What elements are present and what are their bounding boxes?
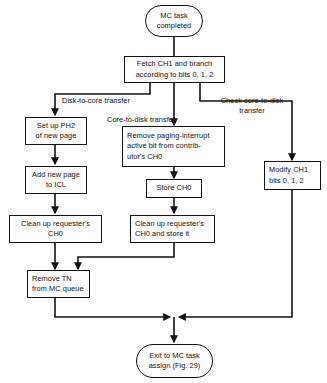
node-set-up-ph2-label: Set up PH2 of new page: [36, 121, 77, 141]
node-clean-up-requesters-ch0-label: Clean up requester's CH0: [21, 219, 90, 239]
node-clean-up-and-store-label: Clean up requester's CH0 and store it: [135, 219, 204, 239]
node-fetch-ch1: Fetch CH1 and branch according to bits 0…: [124, 56, 225, 83]
edge-label-disk-to-core: Disk-to-core transfer: [62, 86, 130, 106]
edge-label-core-to-disk: Core-to-disk transfer: [107, 105, 175, 125]
node-modify-ch1-label: Modify CH1 bits 0, 1, 2: [269, 165, 308, 185]
node-clean-up-and-store: Clean up requester's CH0 and store it: [130, 215, 215, 243]
node-remove-tn-label: Remove TN from MC queue: [32, 274, 84, 294]
node-remove-paging-interrupt-label: Remove paging-interrupt active bit from …: [127, 131, 210, 162]
node-start-label: MC task completed: [157, 11, 192, 31]
node-fetch-ch1-label: Fetch CH1 and branch according to bits 0…: [136, 59, 214, 79]
connector-modify-ch1-to-merge: [179, 190, 292, 317]
connector-clean-up-middle-to-remove-tn: [78, 243, 174, 269]
node-exit-label: Exit to MC task assign (Fig. 29): [149, 351, 201, 371]
node-remove-paging-interrupt: Remove paging-interrupt active bit from …: [122, 126, 225, 167]
node-modify-ch1: Modify CH1 bits 0, 1, 2: [264, 161, 321, 190]
node-store-ch0: Store CH0: [146, 179, 202, 198]
node-add-new-page-label: Add new page to ICL: [32, 170, 80, 190]
node-start: MC task completed: [145, 5, 203, 37]
node-clean-up-requesters-ch0: Clean up requester's CH0: [9, 215, 102, 243]
flowchart-figure: MC task completed Fetch CH1 and branch a…: [0, 0, 327, 383]
node-exit: Exit to MC task assign (Fig. 29): [136, 344, 213, 378]
edge-label-check-core-to-disk: Check core-to-disk transfer: [208, 86, 296, 117]
node-store-ch0-label: Store CH0: [157, 183, 192, 193]
node-set-up-ph2: Set up PH2 of new page: [25, 117, 87, 145]
connector-remove-tn-to-merge: [55, 298, 170, 317]
node-remove-tn: Remove TN from MC queue: [27, 270, 90, 298]
node-add-new-page: Add new page to ICL: [25, 166, 87, 194]
